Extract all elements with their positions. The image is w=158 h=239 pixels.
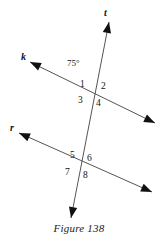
angle-label-6: 6 xyxy=(87,154,92,164)
arrowhead-t-end xyxy=(69,206,77,218)
arrowhead-r-end xyxy=(140,184,152,192)
arrowhead-k-start xyxy=(30,62,42,71)
figure-caption: Figure 138 xyxy=(0,222,158,234)
geometry-figure: t k r 75° 1 2 3 4 5 6 7 8 Figure 138 xyxy=(0,0,158,239)
angle-label-3: 3 xyxy=(78,96,83,106)
line-label-k: k xyxy=(21,52,26,62)
line-label-r: r xyxy=(10,123,14,133)
angle-label-1: 1 xyxy=(80,80,85,90)
angle-label-4: 4 xyxy=(96,99,101,109)
line-label-t: t xyxy=(104,8,107,18)
angle-label-7: 7 xyxy=(65,168,70,178)
arrowhead-k-end xyxy=(143,114,155,123)
arrowhead-r-start xyxy=(19,133,31,141)
figure-canvas xyxy=(0,0,158,239)
arrowhead-t-start xyxy=(103,22,111,34)
arrowheads-group xyxy=(19,22,155,218)
angle-measure-75: 75° xyxy=(67,59,80,68)
angle-label-8: 8 xyxy=(83,171,88,181)
line-k xyxy=(30,62,155,123)
angle-label-5: 5 xyxy=(70,151,75,161)
lines-group xyxy=(19,22,155,218)
angle-label-2: 2 xyxy=(101,82,106,92)
line-t xyxy=(71,22,109,218)
